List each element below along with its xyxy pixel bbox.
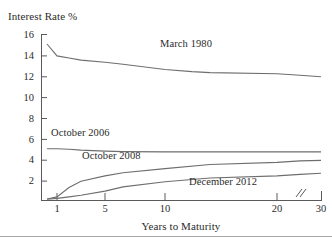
x-axis-break-icon [296, 189, 306, 197]
series-label-december-2012: December 2012 [189, 176, 257, 187]
chart-figure: Interest Rate % Years to Maturity 16 14 … [0, 0, 332, 242]
y-tick-label-2: 2 [14, 175, 34, 186]
series-label-october-2008: October 2008 [82, 150, 141, 161]
series-line-december-2012 [47, 173, 321, 199]
x-tick-label-5: 5 [93, 203, 117, 214]
y-tick-label-16: 16 [14, 29, 34, 40]
y-tick-label-8: 8 [14, 113, 34, 124]
series-label-march-1980: March 1980 [160, 38, 212, 49]
y-axis-title: Interest Rate % [8, 10, 77, 22]
page-divider-rule [0, 236, 332, 237]
x-tick-label-1: 1 [45, 203, 69, 214]
x-tick-label-10: 10 [153, 203, 177, 214]
x-axis-title: Years to Maturity [0, 220, 332, 232]
y-tick-label-6: 6 [14, 134, 34, 145]
y-tick-label-4: 4 [14, 154, 34, 165]
y-tick-label-12: 12 [14, 71, 34, 82]
x-tick-label-20: 20 [265, 203, 289, 214]
y-tick-label-14: 14 [14, 50, 34, 61]
y-tick-label-10: 10 [14, 92, 34, 103]
y-tick-marks [42, 56, 48, 181]
series-label-october-2006: October 2006 [51, 127, 110, 138]
x-tick-label-30: 30 [309, 203, 332, 214]
